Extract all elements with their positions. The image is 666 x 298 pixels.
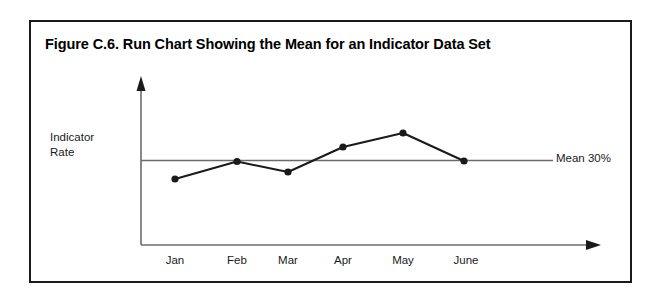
x-tick-label-5: June [454,254,479,266]
x-tick-label-4: May [392,254,414,266]
data-point-may [399,129,406,136]
x-tick-label-2: Mar [278,254,298,266]
y-axis-arrowhead [137,76,146,91]
x-tick-label-1: Feb [227,254,247,266]
x-axis-tick-labels: Jan Feb Mar Apr May June [141,254,541,272]
data-point-feb [233,158,240,165]
x-tick-label-0: Jan [166,254,185,266]
data-point-june [460,157,467,164]
x-tick-label-3: Apr [334,254,352,266]
data-point-apr [339,143,346,150]
data-point-mar [284,168,291,175]
x-axis-arrowhead [586,240,601,250]
x-axis [141,240,601,250]
data-point-jan [171,175,178,182]
data-series-line [175,133,464,179]
data-point-markers [171,129,467,182]
